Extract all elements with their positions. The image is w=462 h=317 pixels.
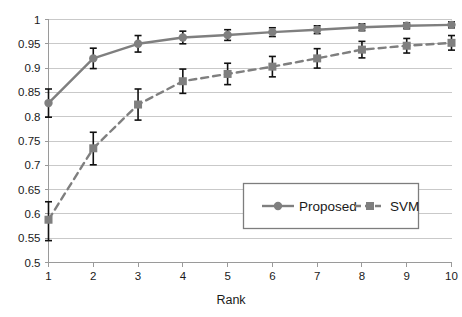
data-point-marker — [224, 70, 232, 78]
data-point-marker — [134, 101, 142, 109]
x-axis-tick-label: 7 — [314, 270, 320, 282]
x-axis-tick-label: 6 — [269, 270, 275, 282]
x-axis-tick-label: 9 — [404, 270, 410, 282]
y-axis-tick-label: 0.7 — [25, 159, 41, 171]
y-axis-tick-label: 0.55 — [18, 232, 40, 244]
legend-label-proposed: Proposed — [299, 199, 357, 214]
data-point-marker — [223, 31, 231, 39]
data-point-marker — [44, 99, 52, 107]
line-chart: 10.950.90.850.80.750.70.650.60.550.5 123… — [0, 0, 462, 317]
data-point-marker — [447, 21, 455, 29]
y-axis-tick-label: 0.85 — [18, 86, 40, 98]
x-axis-tick-label: 3 — [135, 270, 141, 282]
legend-marker-circle-icon — [274, 202, 282, 210]
data-point-marker — [134, 40, 142, 48]
x-axis-tick-label: 10 — [445, 270, 458, 282]
x-axis-tick-label: 1 — [45, 270, 51, 282]
chart-legend: Proposed SVM — [244, 184, 420, 229]
data-point-marker — [313, 54, 321, 62]
x-axis-tick-label: 4 — [180, 270, 187, 282]
data-point-marker — [403, 22, 411, 30]
data-point-marker — [358, 46, 366, 54]
x-axis-tick-label: 8 — [359, 270, 365, 282]
data-point-marker — [268, 28, 276, 36]
data-point-marker — [403, 42, 411, 50]
x-axis-tick-label: 2 — [90, 270, 96, 282]
y-axis-tick-label: 0.75 — [18, 135, 40, 147]
data-point-marker — [448, 39, 456, 47]
y-axis-tick-label: 0.65 — [18, 184, 40, 196]
data-point-marker — [179, 33, 187, 41]
x-axis-tick-label: 5 — [224, 270, 230, 282]
y-axis-tick-label: 0.95 — [18, 38, 40, 50]
chart-canvas: 10.950.90.850.80.750.70.650.60.550.5 123… — [0, 0, 462, 317]
data-point-marker — [268, 63, 276, 71]
data-point-marker — [358, 23, 366, 31]
y-axis-tick-label: 0.5 — [25, 257, 41, 269]
legend-label-svm: SVM — [390, 199, 419, 214]
y-axis-tick-label: 0.6 — [25, 208, 41, 220]
x-axis-title: Rank — [216, 293, 246, 307]
y-axis-tick-label: 0.8 — [25, 111, 41, 123]
y-axis-tick-label: 1 — [34, 14, 40, 26]
y-axis-tick-label: 0.9 — [25, 62, 41, 74]
legend-marker-square-icon — [366, 202, 374, 210]
data-point-marker — [179, 77, 187, 85]
data-point-marker — [89, 54, 97, 62]
data-point-marker — [45, 216, 53, 224]
data-point-marker — [313, 26, 321, 34]
data-point-marker — [89, 144, 97, 152]
